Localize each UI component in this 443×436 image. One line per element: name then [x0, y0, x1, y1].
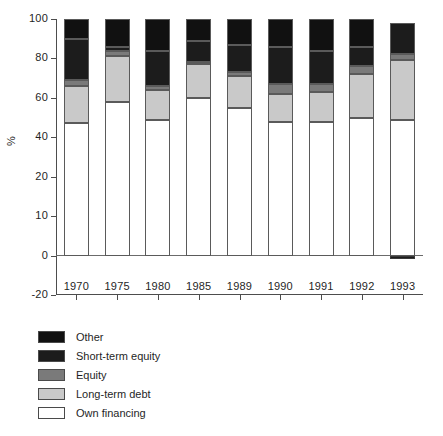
y-tick-mark — [51, 137, 56, 138]
bar-segment — [145, 86, 170, 90]
bar-segment — [227, 108, 252, 256]
bar-segment — [390, 54, 415, 60]
bar-segment — [64, 39, 89, 80]
x-tick-mark — [362, 295, 363, 300]
legend-item[interactable]: Equity — [38, 366, 298, 385]
y-tick-label: 100 — [10, 13, 48, 24]
x-tick-mark — [240, 295, 241, 300]
stacked-bar — [268, 19, 293, 295]
y-tick-label: 0 — [10, 250, 48, 261]
legend-item[interactable]: Long-term debt — [38, 385, 298, 404]
bar-segment — [64, 80, 89, 86]
bar-segment — [105, 102, 130, 256]
y-tick-mark — [51, 19, 56, 20]
y-tick-mark — [51, 256, 56, 257]
bar-segment — [227, 76, 252, 108]
bar-segment — [349, 74, 374, 117]
bar-segment — [186, 98, 211, 256]
bar-segment — [268, 94, 293, 122]
bar-segment — [268, 122, 293, 256]
bar-segment — [349, 47, 374, 67]
bar-segment — [145, 19, 170, 51]
stacked-bar — [64, 19, 89, 295]
bar-segment — [105, 51, 130, 57]
bar-segment — [268, 19, 293, 47]
bar-segment — [186, 62, 211, 64]
x-tick-label: 1980 — [138, 281, 178, 292]
x-tick-mark — [280, 295, 281, 300]
y-tick-label: 10 — [10, 210, 48, 221]
legend-swatch-icon — [38, 388, 65, 400]
y-tick-mark — [51, 295, 56, 296]
stacked-bar — [186, 19, 211, 295]
legend-label: Long-term debt — [76, 388, 151, 400]
stacked-bar — [349, 19, 374, 295]
x-tick-mark — [321, 295, 322, 300]
bar-segment — [227, 45, 252, 73]
bar-segment — [64, 123, 89, 255]
y-tick-mark — [51, 58, 56, 59]
y-tick-mark — [51, 216, 56, 217]
stacked-bar — [145, 19, 170, 295]
bar-segment — [309, 122, 334, 256]
x-tick-label: 1993 — [383, 281, 423, 292]
bar-segment — [186, 41, 211, 63]
y-tick-label: 80 — [10, 52, 48, 63]
bar-segment — [309, 84, 334, 92]
legend-item[interactable]: Own financing — [38, 404, 298, 423]
bar-segment — [64, 19, 89, 39]
bar-segment — [390, 120, 415, 256]
bar-segment — [227, 72, 252, 76]
stacked-bar — [227, 19, 252, 295]
figure-stacked-bar-chart: % 10080604020100-20 19701975198019851989… — [0, 0, 443, 436]
bar-segment — [227, 19, 252, 45]
bar-segment — [309, 51, 334, 85]
x-tick-mark — [117, 295, 118, 300]
bar-segment — [145, 120, 170, 256]
bar-segment-negative — [390, 256, 415, 259]
legend-swatch-icon — [38, 331, 65, 343]
y-tick-label: 60 — [10, 92, 48, 103]
legend-swatch-icon — [38, 407, 65, 419]
bar-segment — [349, 118, 374, 256]
bar-segment — [64, 86, 89, 123]
bar-segment — [186, 19, 211, 41]
chart-legend: OtherShort-term equityEquityLong-term de… — [38, 328, 298, 423]
bar-segment — [349, 19, 374, 47]
legend-item[interactable]: Short-term equity — [38, 347, 298, 366]
stacked-bar — [309, 19, 334, 295]
bar-segment — [309, 19, 334, 51]
bar-segment — [186, 64, 211, 98]
plot-area — [56, 19, 423, 295]
stacked-bar — [390, 19, 415, 295]
bar-segment — [105, 47, 130, 51]
legend-label: Equity — [76, 369, 107, 381]
x-tick-label: 1985 — [179, 281, 219, 292]
y-tick-label: 20 — [10, 171, 48, 182]
x-tick-label: 1975 — [97, 281, 137, 292]
bar-segment — [390, 23, 415, 55]
bar-segment — [145, 51, 170, 86]
y-tick-mark — [51, 98, 56, 99]
x-tick-mark — [199, 295, 200, 300]
x-tick-label: 1989 — [220, 281, 260, 292]
x-tick-mark — [158, 295, 159, 300]
bar-segment — [268, 47, 293, 84]
x-tick-label: 1970 — [56, 281, 96, 292]
x-tick-label: 1992 — [342, 281, 382, 292]
stacked-bar — [105, 19, 130, 295]
bar-segment — [268, 84, 293, 94]
x-tick-mark — [76, 295, 77, 300]
bar-segment — [390, 60, 415, 119]
legend-label: Other — [76, 331, 104, 343]
y-tick-mark — [51, 177, 56, 178]
bar-segment — [349, 66, 374, 74]
bar-segment — [105, 19, 130, 47]
bar-segment — [309, 92, 334, 122]
legend-label: Short-term equity — [76, 350, 160, 362]
x-tick-label: 1990 — [260, 281, 300, 292]
legend-item[interactable]: Other — [38, 328, 298, 347]
legend-swatch-icon — [38, 350, 65, 362]
x-tick-label: 1991 — [301, 281, 341, 292]
bar-segment — [145, 90, 170, 120]
